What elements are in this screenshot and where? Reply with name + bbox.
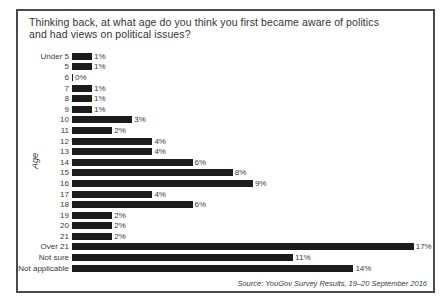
bar [72, 74, 73, 81]
value-label: 2% [114, 232, 126, 241]
category-label: 9 [18, 105, 72, 114]
category-label: 17 [18, 190, 72, 199]
chart-row: 124% [18, 136, 433, 147]
chart-row: 146% [18, 157, 433, 168]
category-label: 14 [18, 158, 72, 167]
chart-row: Over 2117% [18, 242, 433, 253]
category-label: 12 [18, 137, 72, 146]
chart-row: 60% [18, 72, 433, 83]
chart-row: 202% [18, 221, 433, 232]
source-caption: Source: YouGov Survey Results, 19–20 Sep… [237, 279, 427, 288]
category-label: Not sure [18, 253, 72, 262]
value-label: 14% [355, 264, 371, 273]
category-label: 5 [18, 62, 72, 71]
bar [72, 116, 132, 123]
chart-row: 112% [18, 125, 433, 136]
category-label: 21 [18, 232, 72, 241]
category-label: 15 [18, 168, 72, 177]
chart-row: 103% [18, 115, 433, 126]
category-label: Not applicable [18, 264, 72, 273]
value-label: 6% [195, 200, 207, 209]
bar [72, 95, 92, 102]
chart-row: Not sure11% [18, 252, 433, 263]
chart-row: Not applicable14% [18, 263, 433, 274]
bar [72, 233, 112, 240]
value-label: 1% [94, 94, 106, 103]
bar [72, 243, 414, 250]
category-label: 11 [18, 126, 72, 135]
chart-title-line2: and had views on political issues? [29, 28, 379, 40]
category-label: 8 [18, 94, 72, 103]
chart-row: 91% [18, 104, 433, 115]
chart-row: 169% [18, 178, 433, 189]
value-label: 0% [75, 73, 87, 82]
value-label: 1% [94, 84, 106, 93]
bar-rows: Under 51%51%60%71%81%91%103%112%124%134%… [18, 51, 433, 273]
value-label: 17% [416, 242, 432, 251]
bar [72, 53, 92, 60]
chart-row: 158% [18, 168, 433, 179]
category-label: 10 [18, 115, 72, 124]
category-label: Over 21 [18, 242, 72, 251]
category-label: 7 [18, 84, 72, 93]
value-label: 9% [255, 179, 267, 188]
bar [72, 138, 152, 145]
bar [72, 169, 233, 176]
category-label: 16 [18, 179, 72, 188]
chart-row: Under 51% [18, 51, 433, 62]
bar [72, 127, 112, 134]
value-label: 1% [94, 52, 106, 61]
bar [72, 180, 253, 187]
chart-row: 134% [18, 146, 433, 157]
chart-row: 174% [18, 189, 433, 200]
category-label: 13 [18, 147, 72, 156]
chart-title-line1: Thinking back, at what age do you think … [29, 16, 379, 28]
category-label: Under 5 [18, 52, 72, 61]
chart-box: Thinking back, at what age do you think … [16, 9, 435, 293]
chart-row: 212% [18, 231, 433, 242]
value-label: 8% [235, 168, 247, 177]
chart-row: 81% [18, 93, 433, 104]
bar [72, 106, 92, 113]
bar [72, 63, 92, 70]
category-label: 19 [18, 211, 72, 220]
chart-row: 71% [18, 83, 433, 94]
bar [72, 212, 112, 219]
figure: Thinking back, at what age do you think … [0, 0, 446, 306]
value-label: 1% [94, 62, 106, 71]
value-label: 4% [154, 190, 166, 199]
value-label: 2% [114, 211, 126, 220]
value-label: 4% [154, 147, 166, 156]
value-label: 6% [195, 158, 207, 167]
bar [72, 191, 152, 198]
value-label: 3% [134, 115, 146, 124]
category-label: 6 [18, 73, 72, 82]
value-label: 11% [295, 253, 310, 262]
value-label: 4% [154, 137, 166, 146]
value-label: 2% [114, 126, 126, 135]
chart-title: Thinking back, at what age do you think … [29, 16, 379, 40]
chart-row: 192% [18, 210, 433, 221]
bar [72, 201, 193, 208]
bar [72, 222, 112, 229]
chart-row: 51% [18, 62, 433, 73]
bar [72, 148, 152, 155]
value-label: 1% [94, 105, 106, 114]
value-label: 2% [114, 221, 126, 230]
category-label: 20 [18, 221, 72, 230]
category-label: 18 [18, 200, 72, 209]
bar [72, 265, 353, 272]
bar [72, 85, 92, 92]
chart-row: 186% [18, 199, 433, 210]
bar [72, 159, 193, 166]
bar [72, 254, 293, 261]
